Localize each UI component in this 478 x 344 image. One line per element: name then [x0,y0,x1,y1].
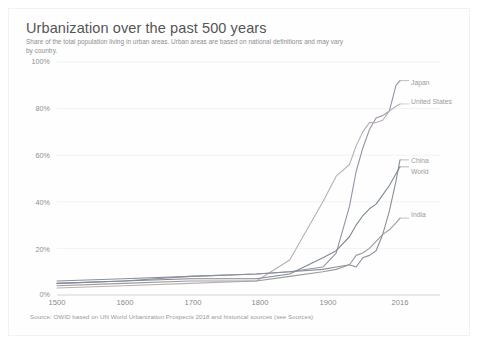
chart-card: Urbanization over the past 500 years Sha… [0,0,478,344]
gridlines [57,62,440,295]
series-line-united-states [57,104,400,288]
plot-area [0,0,478,344]
chart-source-note: Source: OWID based on UN World Urbanizat… [30,313,313,320]
series-line-china [57,160,400,281]
label-leader-lines [400,81,409,218]
series-line-japan [57,81,400,284]
series-line-world [57,167,400,284]
series-lines [57,81,400,288]
